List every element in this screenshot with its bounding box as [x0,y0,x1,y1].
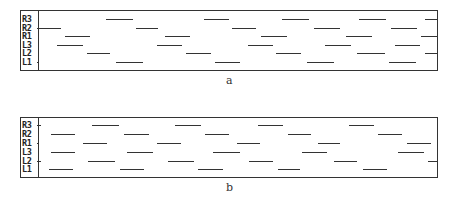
segment-l1 [116,62,143,64]
segment-r1 [37,143,39,145]
segment-r3 [204,19,229,21]
segment-l1 [278,169,300,171]
panel-b: R3R2R1L3L2L1 [20,117,438,178]
row-label-r2: R2 [22,130,32,138]
segment-r3 [106,19,133,21]
segment-r1 [421,36,437,38]
segment-r3 [425,19,437,21]
segment-r2 [124,134,149,136]
segment-l3 [302,152,327,154]
segment-r1 [165,36,190,38]
segment-r3 [258,125,283,127]
segment-r3 [175,125,201,127]
segment-l1 [307,62,334,64]
segment-l2 [425,53,437,55]
row-label-r1: R1 [22,139,32,147]
row-label-l1: L1 [22,165,32,173]
segment-l3 [51,152,75,154]
segment-l2 [334,161,357,163]
segment-r1 [65,36,90,38]
row-label-l1: L1 [22,58,32,66]
segment-l3 [157,45,182,47]
segment-r1 [261,36,287,38]
segment-r1 [157,143,181,145]
segment-l3 [213,152,240,154]
segment-l1 [198,169,223,171]
segment-r1 [318,143,340,145]
segment-r3 [282,19,309,21]
segment-r3 [349,125,374,127]
segment-l1 [363,169,387,171]
segment-l2 [168,161,194,163]
segment-r2 [232,28,256,30]
segment-l2 [276,53,301,55]
row-label-r3: R3 [22,15,32,23]
segment-r2 [51,134,75,136]
segment-r3 [37,125,41,127]
segment-l2 [428,161,437,163]
segment-r3 [92,125,119,127]
segment-l3 [57,45,83,47]
segment-r2 [314,28,340,30]
segment-l1 [215,62,240,64]
panel-caption-a: a [226,74,233,87]
segment-l1 [120,169,144,171]
segment-l3 [325,45,351,47]
segment-l1 [37,62,39,64]
segment-r3 [359,19,386,21]
panel-caption-b: b [226,181,233,194]
row-label-r3: R3 [22,121,32,129]
row-label-l2: L2 [22,49,32,57]
segment-r2 [378,134,402,136]
segment-r1 [83,143,107,145]
segment-l1 [49,169,73,171]
panel-a: R3R2R1L3L2L1 [20,10,438,71]
segment-r1 [346,36,372,38]
segment-l3 [248,45,273,47]
segment-l3 [398,152,424,154]
segment-l2 [88,161,115,163]
row-label-l3: L3 [22,148,32,156]
segment-l2 [37,161,41,163]
segment-l2 [249,161,273,163]
segment-l1 [389,62,416,64]
segment-r1 [407,143,431,145]
segment-r2 [136,28,158,30]
segment-r1 [237,143,260,145]
segment-r2 [288,134,311,136]
segment-r2 [205,134,229,136]
row-label-r1: R1 [22,32,32,40]
segment-l3 [395,45,420,47]
segment-r2 [391,28,417,30]
segment-l2 [87,53,110,55]
segment-l2 [186,53,211,55]
segment-r2 [37,28,61,30]
segment-l3 [127,152,153,154]
segment-l2 [357,53,385,55]
